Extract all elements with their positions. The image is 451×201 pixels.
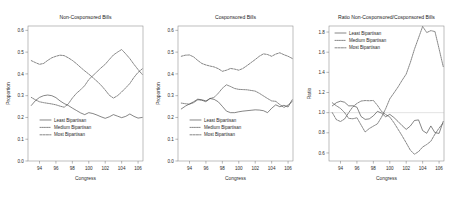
y-tick-label: 0.5: [17, 50, 24, 55]
y-tick-label: 1.2: [318, 90, 325, 95]
y-tick-label: 0.2: [168, 115, 175, 120]
x-tick-label: 104: [118, 166, 126, 171]
legend-label-least: Least Bipartisan: [204, 118, 237, 123]
plot-frame: [329, 26, 444, 161]
x-tick-label: 98: [370, 166, 376, 171]
y-tick-label: 1.4: [318, 70, 325, 75]
chart-svg-ratio: Ratio Non-Cosponsored/Cosponsored Bills0…: [301, 0, 451, 201]
panel-ratio: Ratio Non-Cosponsored/Cosponsored Bills0…: [301, 0, 451, 201]
series-line-most-bipartisan: [332, 100, 443, 154]
panel-cosponsored: Cosponsored Bills0.00.10.20.30.40.50.6Pr…: [150, 0, 300, 201]
y-tick-label: 0.0: [17, 159, 24, 164]
legend-label-medium: Medium Bipartisan: [54, 125, 92, 130]
legend-label-least: Least Bipartisan: [349, 31, 382, 36]
y-tick-label: 0.3: [168, 93, 175, 98]
chart-svg-cosponsored: Cosponsored Bills0.00.10.20.30.40.50.6Pr…: [150, 0, 300, 201]
y-tick-label: 0.6: [168, 28, 175, 33]
x-tick-label: 106: [285, 166, 293, 171]
legend-label-most: Most Bipartisan: [349, 46, 380, 51]
y-axis-label: Proportion: [156, 82, 161, 105]
y-tick-label: 0.6: [17, 28, 24, 33]
y-tick-label: 0.4: [168, 72, 175, 77]
x-tick-label: 102: [402, 166, 410, 171]
series-line-least-bipartisan: [182, 99, 293, 113]
series-line-most-bipartisan: [31, 55, 142, 98]
x-tick-label: 98: [220, 166, 226, 171]
x-tick-label: 106: [134, 166, 142, 171]
y-axis-label: Proportion: [6, 82, 11, 105]
legend-label-most: Most Bipartisan: [204, 132, 235, 137]
panel-non-cosponsored: Non-Cosponsored Bills0.00.10.20.30.40.50…: [0, 0, 150, 201]
legend-label-most: Most Bipartisan: [54, 132, 85, 137]
y-axis-label: Ratio: [307, 88, 312, 100]
x-axis-label: Congress: [376, 176, 397, 181]
legend-label-medium: Medium Bipartisan: [349, 38, 387, 43]
y-tick-label: 1.0: [318, 110, 325, 115]
y-tick-label: 1.8: [318, 30, 325, 35]
x-tick-label: 96: [204, 166, 210, 171]
x-tick-label: 104: [268, 166, 276, 171]
y-tick-label: 0.3: [17, 93, 24, 98]
panel-title: Ratio Non-Cosponsored/Cosponsored Bills: [338, 14, 435, 20]
series-line-most-bipartisan: [182, 53, 293, 72]
series-line-medium-bipartisan: [182, 85, 293, 108]
plot-frame: [28, 26, 143, 161]
plot-frame: [178, 26, 293, 161]
x-tick-label: 94: [338, 166, 344, 171]
x-tick-label: 96: [354, 166, 360, 171]
x-tick-label: 94: [187, 166, 193, 171]
x-tick-label: 106: [435, 166, 443, 171]
x-axis-label: Congress: [75, 176, 96, 181]
y-tick-label: 1.6: [318, 50, 325, 55]
chart-svg-non-cosponsored: Non-Cosponsored Bills0.00.10.20.30.40.50…: [0, 0, 150, 201]
x-tick-label: 100: [85, 166, 93, 171]
figure-container: Non-Cosponsored Bills0.00.10.20.30.40.50…: [0, 0, 451, 201]
series-line-least-bipartisan: [31, 95, 142, 118]
series-line-least-bipartisan: [332, 101, 443, 133]
x-tick-label: 100: [386, 166, 394, 171]
y-tick-label: 0.2: [17, 115, 24, 120]
x-tick-label: 102: [252, 166, 260, 171]
legend-label-least: Least Bipartisan: [54, 118, 87, 123]
y-tick-label: 0.1: [168, 137, 175, 142]
y-tick-label: 0.8: [318, 130, 325, 135]
series-line-medium-bipartisan: [31, 50, 142, 108]
y-tick-label: 0.1: [17, 137, 24, 142]
panel-title: Cosponsored Bills: [215, 14, 256, 20]
y-tick-label: 0.4: [17, 72, 24, 77]
legend-label-medium: Medium Bipartisan: [204, 125, 242, 130]
panel-title: Non-Cosponsored Bills: [60, 14, 112, 20]
y-tick-label: 0.0: [168, 159, 175, 164]
x-tick-label: 94: [37, 166, 43, 171]
x-tick-label: 96: [53, 166, 59, 171]
x-tick-label: 104: [418, 166, 426, 171]
y-tick-label: 0.5: [168, 50, 175, 55]
x-tick-label: 98: [70, 166, 76, 171]
y-tick-label: 0.6: [318, 151, 325, 156]
x-axis-label: Congress: [225, 176, 246, 181]
x-tick-label: 100: [235, 166, 243, 171]
x-tick-label: 102: [101, 166, 109, 171]
